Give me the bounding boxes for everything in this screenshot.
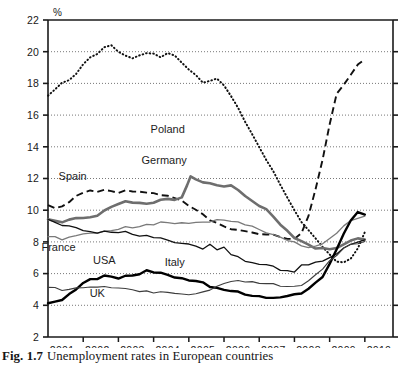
series-label-poland: Poland	[151, 123, 185, 135]
x-tick-label: 2010	[367, 344, 392, 348]
series-label-usa: USA	[93, 254, 116, 266]
figure-caption: Fig. 1.7Unemployment rates in European c…	[2, 349, 405, 364]
y-axis-unit-label: %	[53, 7, 62, 18]
y-tick-label: 2	[33, 331, 39, 343]
y-tick-label: 10	[27, 204, 39, 216]
x-tick-label: 2003	[120, 344, 145, 348]
series-label-uk: UK	[90, 287, 106, 299]
x-tick-label: 2001	[50, 344, 75, 348]
x-tick-label: 2008	[296, 344, 321, 348]
y-tick-label: 14	[27, 141, 39, 153]
unemployment-line-chart: 222018161412108642 200120022003200420052…	[0, 0, 407, 348]
y-tick-label: 18	[27, 77, 39, 89]
y-tick-label: 20	[27, 46, 39, 58]
series-label-germany: Germany	[142, 154, 188, 166]
y-tick-label: 6	[33, 267, 39, 279]
series-label-france: France	[41, 241, 75, 253]
x-tick-label: 2005	[191, 344, 216, 348]
x-tick-label: 2004	[155, 344, 180, 348]
y-tick-label: 22	[27, 14, 39, 26]
y-tick-label: 4	[33, 299, 39, 311]
y-tick-label: 8	[33, 236, 39, 248]
y-tick-label: 12	[27, 172, 39, 184]
x-tick-label: 2006	[226, 344, 251, 348]
series-label-spain: Spain	[59, 170, 87, 182]
figure-caption-text: Unemployment rates in European countries	[47, 349, 273, 363]
y-tick-label: 16	[27, 109, 39, 121]
figure-container: 222018161412108642 200120022003200420052…	[0, 0, 407, 371]
x-tick-label: 2009	[331, 344, 356, 348]
x-tick-label: 2007	[261, 344, 286, 348]
series-label-italy: Italy	[165, 256, 186, 268]
x-tick-label: 2002	[85, 344, 110, 348]
figure-number: Fig. 1.7	[2, 349, 43, 363]
